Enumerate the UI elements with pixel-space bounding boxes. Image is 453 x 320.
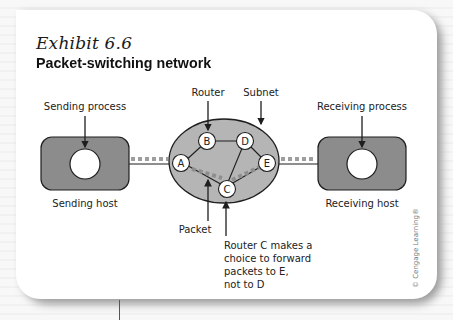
router-label: Router bbox=[191, 87, 225, 98]
router-c-note-line-4: not to D bbox=[224, 279, 265, 290]
router-b: B bbox=[199, 133, 216, 150]
svg-text:B: B bbox=[204, 136, 211, 147]
router-d: D bbox=[237, 133, 254, 150]
receiving-process-circle bbox=[347, 149, 377, 179]
subnet-label: Subnet bbox=[243, 87, 279, 98]
router-c-note-line-3: packets to E, bbox=[224, 266, 289, 277]
sending-process-circle bbox=[70, 149, 100, 179]
packet-label: Packet bbox=[179, 224, 212, 235]
svg-text:E: E bbox=[264, 158, 270, 169]
router-c-note-line-2: choice to forward bbox=[224, 253, 311, 264]
svg-text:C: C bbox=[224, 184, 231, 195]
svg-text:D: D bbox=[241, 136, 249, 147]
router-e: E bbox=[259, 155, 276, 172]
router-a: A bbox=[173, 155, 190, 172]
packet-switching-diagram: Sending process Sending host Receiving p… bbox=[0, 0, 453, 320]
svg-text:A: A bbox=[178, 158, 185, 169]
copyright-notice: © Cengage Learning® bbox=[412, 208, 420, 288]
router-c: C bbox=[219, 181, 236, 198]
router-c-note-line-1: Router C makes a bbox=[224, 240, 312, 251]
receiving-process-label: Receiving process bbox=[317, 101, 407, 112]
sending-process-label: Sending process bbox=[44, 101, 126, 112]
sending-host-label: Sending host bbox=[52, 198, 117, 209]
page-gutter-line bbox=[119, 300, 120, 320]
receiving-host-label: Receiving host bbox=[325, 198, 398, 209]
